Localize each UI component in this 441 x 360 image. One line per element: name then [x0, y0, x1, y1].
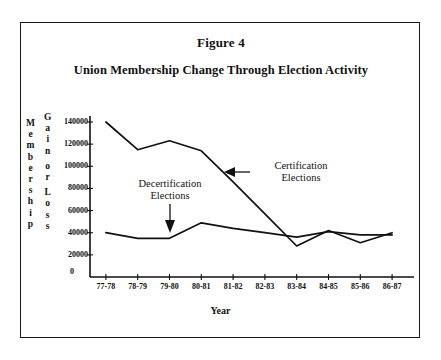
membership-char: i [29, 208, 32, 219]
annotation-certification-line1: Certification [253, 160, 349, 172]
membership-char: r [28, 174, 32, 185]
y-axis-tick-label: 140000 [42, 117, 88, 126]
y-axis-tick-label: 100000 [42, 161, 88, 170]
annotation-decertification-elections: Decertification Elections [118, 178, 222, 202]
y-axis-zero-label: 0 [70, 267, 74, 276]
x-axis-label: Year [0, 305, 441, 316]
membership-char: b [28, 152, 33, 163]
membership-char: e [28, 129, 32, 140]
y-axis-tick-label: 120000 [42, 139, 88, 148]
y-axis-tick-label: 40000 [42, 228, 88, 237]
membership-char: h [28, 196, 33, 207]
annotation-decertification-line1: Decertification [118, 178, 222, 190]
membership-char: M [26, 118, 35, 129]
annotation-certification-elections: Certification Elections [253, 160, 349, 184]
y-axis-label-membership: Membership [26, 118, 35, 230]
y-axis-tick-label: 80000 [42, 183, 88, 192]
annotation-certification-line2: Elections [253, 172, 349, 184]
y-axis-tick-label: 60000 [42, 206, 88, 215]
membership-char: m [27, 140, 35, 151]
membership-char: e [28, 163, 32, 174]
annotation-decertification-line2: Elections [118, 190, 222, 202]
x-axis-tick-label: 86-87 [370, 282, 414, 291]
membership-char: p [28, 219, 33, 230]
membership-char: s [29, 185, 33, 196]
y-axis-tick-label: 20000 [42, 250, 88, 259]
